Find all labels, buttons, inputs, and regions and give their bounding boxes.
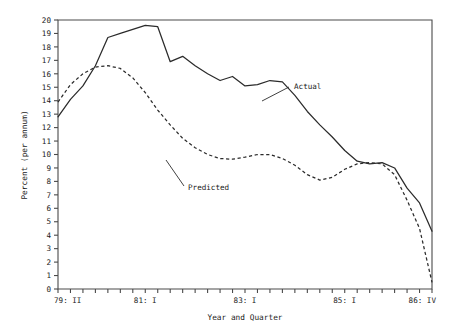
y-tick-label-12: 12	[42, 123, 51, 132]
series-line-actual	[58, 25, 432, 231]
y-tick-label-15: 15	[42, 83, 51, 92]
y-tick-label-5: 5	[46, 217, 51, 226]
line-chart: 01234567891011121314151617181920 79: II8…	[0, 0, 461, 334]
y-tick-label-4: 4	[46, 231, 51, 240]
y-tick-label-0: 0	[46, 285, 51, 294]
x-axis-title: Year and Quarter	[207, 313, 282, 322]
y-axis-ticks	[54, 20, 58, 289]
leader-line-actual	[262, 87, 289, 101]
y-tick-label-11: 11	[42, 137, 52, 146]
x-tick-label-85--I: 85: I	[333, 296, 356, 305]
y-tick-label-10: 10	[42, 150, 52, 159]
x-tick-label-83--I: 83: I	[234, 296, 257, 305]
y-tick-label-13: 13	[42, 110, 51, 119]
x-tick-label-81--I: 81: I	[134, 296, 157, 305]
leader-line-predicted	[166, 160, 184, 186]
y-tick-label-19: 19	[42, 29, 52, 38]
y-tick-label-7: 7	[46, 191, 51, 200]
y-tick-label-18: 18	[42, 43, 52, 52]
series-line-predicted	[58, 66, 432, 283]
x-axis-tick-labels: 79: II81: I83: I85: I86: IV	[54, 296, 436, 305]
x-tick-label-79--II: 79: II	[54, 296, 81, 305]
y-tick-label-17: 17	[42, 56, 51, 65]
annotation-label-actual: Actual	[294, 82, 321, 91]
y-axis-title: Percent (per annum)	[20, 110, 29, 199]
x-axis-ticks	[58, 289, 432, 293]
y-tick-label-6: 6	[46, 204, 51, 213]
x-tick-label-86--IV: 86: IV	[409, 296, 437, 305]
chart-container: 01234567891011121314151617181920 79: II8…	[0, 0, 461, 334]
annotation-label-predicted: Predicted	[188, 183, 229, 192]
plot-border	[58, 20, 432, 289]
y-tick-label-8: 8	[46, 177, 51, 186]
y-tick-label-1: 1	[46, 271, 51, 280]
y-tick-label-16: 16	[42, 70, 52, 79]
y-axis-tick-labels: 01234567891011121314151617181920	[42, 16, 52, 294]
y-tick-label-3: 3	[46, 244, 51, 253]
y-tick-label-14: 14	[42, 96, 52, 105]
y-tick-label-20: 20	[42, 16, 52, 25]
y-tick-label-9: 9	[46, 164, 51, 173]
axes-frame	[58, 20, 432, 289]
y-tick-label-2: 2	[46, 258, 51, 267]
series-annotations: ActualPredicted	[166, 82, 321, 192]
